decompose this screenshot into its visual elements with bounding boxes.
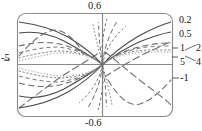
x-axis-right-label: -1 — [180, 73, 189, 84]
y-axis-bottom-label: -0.6 — [85, 118, 102, 129]
curve-label-0-5: 0.5 — [179, 29, 192, 39]
curve--1-bottom-hump — [108, 80, 171, 104]
curve-1-mirror — [19, 43, 103, 65]
curve-steep-c-mirror — [87, 65, 103, 110]
curve-label-0-2: 0.2 — [179, 15, 192, 25]
y-axis-top-label: 0.6 — [88, 1, 101, 12]
x-axis-left-label: -5 — [1, 53, 10, 64]
curve-steep-c — [103, 20, 119, 65]
curve--1-right — [105, 52, 171, 105]
curve-family-chart — [0, 0, 202, 131]
leader-line-2 — [185, 45, 196, 50]
leader-line-4 — [185, 56, 196, 61]
curve-label-4: 4 — [196, 57, 201, 67]
curve-label-2: 2 — [196, 43, 201, 53]
curve-label-1: 1 — [180, 43, 185, 53]
curve-0-5-mirror — [19, 32, 103, 64]
curve-label-5: 5 — [180, 57, 185, 67]
plot-figure: 0.6 -0.6 -5 -1 0.2 0.5 1 5 2 4 — [0, 0, 202, 131]
curve-2-mirror — [19, 47, 103, 65]
